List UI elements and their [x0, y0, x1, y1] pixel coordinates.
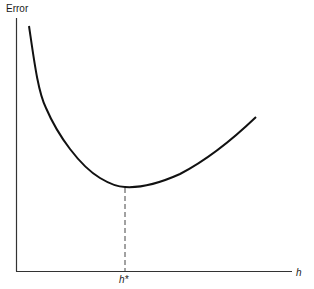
y-axis-label: Error	[6, 4, 28, 14]
x-axis-label: h	[296, 268, 302, 278]
error-vs-h-diagram	[0, 0, 314, 289]
optimum-label: h*	[119, 275, 128, 285]
error-curve	[29, 26, 256, 187]
